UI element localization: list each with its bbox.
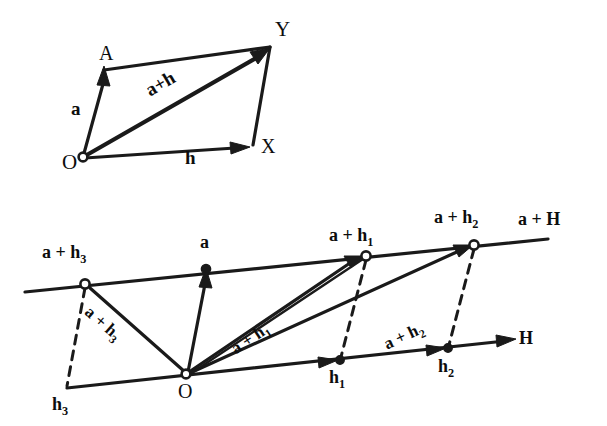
label-node-h3: h3 (52, 395, 68, 417)
label-node-h1-sub: 1 (339, 377, 345, 391)
lower-line-H-arrowhead (496, 335, 516, 347)
label-node-a-plus-h3: a + h3 (42, 243, 86, 265)
node-a-plus-h1 (361, 251, 370, 260)
label-node-h2: h2 (438, 357, 454, 379)
label-node-a-plus-h1-text: a + h (329, 225, 367, 245)
dashed-connector-h2 (449, 249, 474, 345)
top-vertex-y-label: Y (275, 19, 290, 40)
dashed-connector-h3 (67, 288, 85, 386)
node-origin-O (182, 370, 191, 379)
ray-O-to-a-plus-h2-shaft (190, 251, 459, 373)
label-node-h2-text: h (438, 356, 448, 376)
label-node-a: a (200, 233, 209, 251)
top-origin-label: O (62, 152, 77, 173)
label-node-a-plus-h2-sub: 2 (472, 217, 478, 231)
label-node-a-plus-h3-sub: 3 (80, 252, 86, 266)
label-node-h2-sub: 2 (448, 366, 454, 380)
top-vector-a-label: a (71, 99, 81, 118)
top-parallelogram-group (79, 47, 270, 161)
label-node-h1: h1 (329, 368, 345, 390)
label-node-a-plus-h1: a + h1 (329, 226, 373, 248)
ray-O-to-a-plus-h1-shaft (189, 263, 350, 372)
label-node-h3-sub: 3 (62, 404, 68, 418)
vector-O-to-a-shaft (188, 284, 205, 372)
top-side-YX (253, 47, 270, 145)
top-vector-h-label: h (185, 148, 196, 167)
node-a-plus-h3 (80, 279, 89, 288)
figure-canvas (0, 0, 607, 426)
top-vector-h-shaft (85, 148, 235, 158)
top-vertex-a-label: A (99, 43, 113, 63)
top-vector-h-arrowhead (230, 142, 250, 154)
node-a (201, 264, 210, 273)
label-node-a-plus-h2: a + h2 (434, 208, 478, 230)
label-lower-line-H: H (519, 329, 533, 347)
dashed-connector-h1 (341, 260, 366, 357)
label-upper-line-a-plus-H: a + H (518, 210, 560, 228)
node-h2 (444, 344, 452, 352)
label-origin-O: O (178, 381, 192, 401)
node-h1 (336, 356, 344, 364)
node-a-plus-h2 (469, 240, 478, 249)
label-node-a-plus-h2-text: a + h (434, 207, 472, 227)
label-node-a-plus-h1-sub: 1 (367, 235, 373, 249)
top-vertex-x-label: X (261, 136, 275, 156)
top-origin-node (79, 153, 88, 162)
label-node-h1-text: h (329, 367, 339, 387)
label-node-a-plus-h3-text: a + h (42, 242, 80, 262)
vector-addition-figure: O A Y X a h a+h a + h3 a a + h1 a + h2 a… (0, 0, 607, 426)
label-node-h3-text: h (52, 394, 62, 414)
